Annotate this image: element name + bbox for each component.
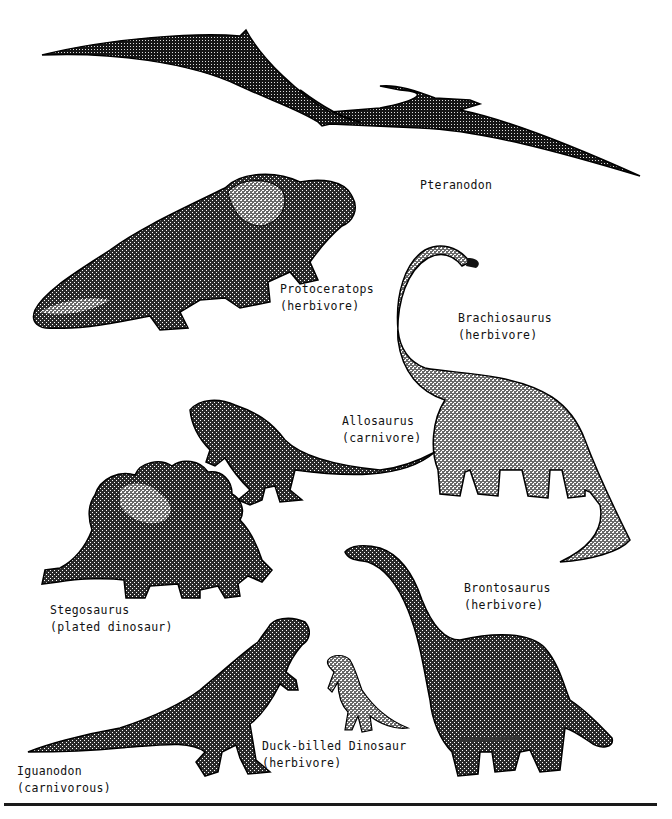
brachiosaurus-figure — [397, 246, 630, 562]
allosaurus-name: Allosaurus — [342, 413, 421, 430]
pteranodon-label: Pteranodon — [420, 177, 492, 194]
stegosaurus-figure — [42, 461, 272, 598]
protoceratops-label: Protoceratops (herbivore) — [280, 281, 374, 315]
brachiosaurus-name: Brachiosaurus — [458, 310, 552, 327]
protoceratops-name: Protoceratops — [280, 281, 374, 298]
dinosaur-illustration-page: Pteranodon Protoceratops (herbivore) Bra… — [0, 0, 672, 819]
dinosaur-artwork — [0, 0, 672, 819]
brontosaurus-label: Brontosaurus (herbivore) — [464, 580, 551, 614]
iguanodon-label: Iguanodon (carnivorous) — [17, 763, 111, 797]
brachiosaurus-label: Brachiosaurus (herbivore) — [458, 310, 552, 344]
brachiosaurus-note: (herbivore) — [458, 327, 552, 344]
brontosaurus-note: (herbivore) — [464, 597, 551, 614]
iguanodon-name: Iguanodon — [17, 763, 111, 780]
duck-billed-dinosaur-name: Duck-billed Dinosaur — [262, 738, 406, 755]
stegosaurus-label: Stegosaurus (plated dinosaur) — [50, 602, 173, 636]
protoceratops-note: (herbivore) — [280, 298, 374, 315]
duck-billed-dinosaur-note: (herbivore) — [262, 755, 406, 772]
duck-billed-dinosaur-label: Duck-billed Dinosaur (herbivore) — [262, 738, 406, 772]
allosaurus-label: Allosaurus (carnivore) — [342, 413, 421, 447]
stegosaurus-note: (plated dinosaur) — [50, 619, 173, 636]
pteranodon-figure — [42, 30, 640, 176]
bottom-divider — [4, 803, 657, 806]
pteranodon-name: Pteranodon — [420, 177, 492, 194]
stegosaurus-name: Stegosaurus — [50, 602, 173, 619]
duck-billed-dinosaur-figure — [327, 656, 408, 733]
iguanodon-note: (carnivorous) — [17, 780, 111, 797]
allosaurus-note: (carnivore) — [342, 430, 421, 447]
brontosaurus-name: Brontosaurus — [464, 580, 551, 597]
